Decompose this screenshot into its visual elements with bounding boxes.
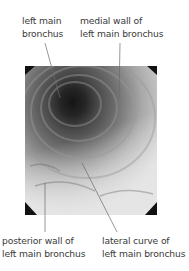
label-left-main-bronchus: left main bronchus <box>22 14 63 40</box>
label-line-1: left main <box>22 14 63 27</box>
label-line-2: left main bronchus <box>2 247 85 260</box>
label-lateral-curve: lateral curve of left main bronchus <box>102 234 185 260</box>
label-line-2: left main bronchus <box>80 27 163 40</box>
label-line-2: bronchus <box>22 27 63 40</box>
label-line-1: posterior wall of <box>2 234 85 247</box>
label-line-1: medial wall of <box>80 14 163 27</box>
label-posterior-wall: posterior wall of left main bronchus <box>2 234 85 260</box>
label-line-2: left main bronchus <box>102 247 185 260</box>
bronchus-lumen-rendering <box>25 66 157 215</box>
bronchoscopy-image <box>25 66 157 215</box>
label-medial-wall: medial wall of left main bronchus <box>80 14 163 40</box>
label-line-1: lateral curve of <box>102 234 185 247</box>
